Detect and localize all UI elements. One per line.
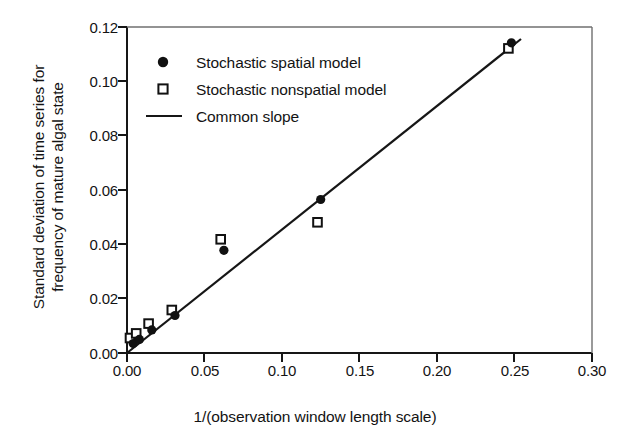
- series-spatial-markers: [129, 38, 516, 348]
- data-point-circle: [170, 311, 179, 320]
- data-point-circle: [219, 246, 228, 255]
- legend-markers: [146, 57, 182, 116]
- legend-marker-filled-circle: [158, 57, 168, 67]
- common-slope-line: [127, 39, 521, 353]
- chart-figure: Standard deviation of time series for fr…: [0, 0, 630, 448]
- data-point-circle: [135, 335, 144, 344]
- legend-marker-open-square: [158, 84, 167, 93]
- plot-canvas: [0, 0, 630, 448]
- data-point-square: [313, 218, 322, 227]
- data-point-square: [216, 235, 225, 244]
- y-axis-ticks: [118, 27, 127, 353]
- series-nonspatial-markers: [126, 44, 513, 342]
- data-point-circle: [507, 38, 516, 47]
- x-axis-ticks: [127, 353, 592, 362]
- plot-frame: [127, 27, 592, 353]
- data-point-circle: [316, 195, 325, 204]
- data-point-circle: [147, 325, 156, 334]
